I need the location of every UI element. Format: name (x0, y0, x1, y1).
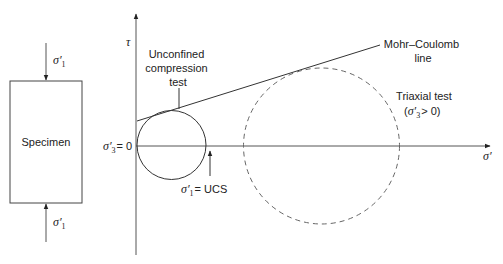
unconfined-circle (137, 111, 206, 180)
mohr-coulomb-label: Mohr–Coulomb line (384, 38, 462, 64)
bottom-load-label: σ′1 (53, 215, 66, 231)
unconfined-group: Unconfined compression test σ′1= UCS (137, 48, 227, 198)
unconfined-label: Unconfined compression test (145, 48, 210, 88)
origin-label: σ′3= 0 (103, 139, 132, 155)
top-load-label: σ′1 (53, 53, 66, 69)
mohr-circle-diagram: Specimen σ′1 σ′1 τ σ′ σ′3= 0 Mohr–Coulom… (0, 0, 503, 264)
sigma-axis-label: σ′ (483, 149, 492, 163)
specimen-group: Specimen σ′1 σ′1 (10, 43, 82, 242)
tau-axis-label: τ (126, 35, 131, 49)
triaxial-label-line1: Triaxial test (396, 90, 452, 102)
specimen-label: Specimen (22, 136, 71, 148)
ucs-label: σ′1= UCS (181, 182, 227, 198)
triaxial-label-line2: (σ′3> 0) (404, 104, 440, 120)
